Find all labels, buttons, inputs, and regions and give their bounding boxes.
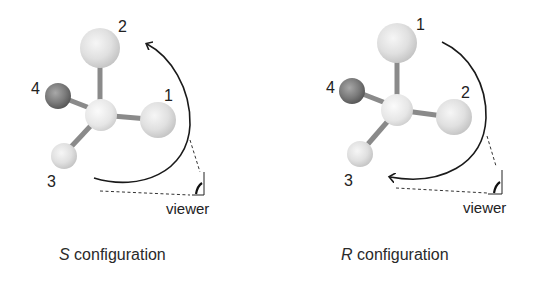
priority-label-top: 1 [416, 16, 425, 33]
priority-label-left: 4 [326, 79, 335, 96]
viewer-label: viewer [463, 199, 506, 216]
atom-central-carbon [381, 94, 413, 126]
priority-label-right: 1 [164, 87, 173, 104]
atom-substituent-4 [45, 83, 71, 109]
viewer-label: viewer [166, 200, 209, 217]
caption-s-configuration: S configuration [59, 246, 166, 264]
priority-label-bottom: 3 [47, 173, 56, 190]
caption-r-configuration: R configuration [341, 246, 449, 264]
configuration-letter: R [341, 246, 353, 263]
atom-substituent-3 [347, 141, 373, 167]
molecule-s: 2 1 4 3 viewer [31, 18, 209, 217]
sightline [487, 136, 496, 166]
atom-substituent-4 [339, 78, 365, 104]
sightline [190, 140, 200, 172]
caption-text: configuration [70, 246, 166, 263]
atom-substituent-3 [51, 143, 77, 169]
atom-substituent-top [80, 28, 120, 68]
priority-label-right: 2 [461, 84, 470, 101]
atom-substituent-right [140, 102, 176, 138]
atom-substituent-top [377, 23, 417, 63]
configuration-letter: S [59, 246, 70, 263]
priority-label-top: 2 [118, 18, 127, 35]
sightline [396, 188, 487, 193]
eye-icon [192, 172, 204, 195]
priority-label-left: 4 [31, 80, 40, 97]
eye-icon [488, 170, 502, 194]
priority-label-bottom: 3 [344, 172, 353, 189]
atom-central-carbon [85, 99, 117, 131]
molecule-r: 1 2 4 3 viewer [326, 16, 506, 216]
caption-text: configuration [353, 246, 449, 263]
sightline [100, 191, 190, 195]
atom-substituent-right [436, 99, 472, 135]
